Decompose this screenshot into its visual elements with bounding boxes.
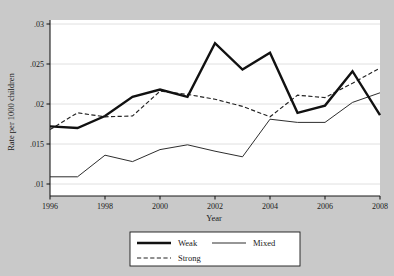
- legend-label-weak: Weak: [178, 238, 198, 248]
- y-tick-label: .03: [34, 20, 44, 29]
- y-axis-label: Rate per 1000 children: [6, 72, 16, 150]
- line-chart: .01.015.02.025.03 1996199820002002200420…: [0, 0, 394, 276]
- y-tick-label: .01: [34, 180, 44, 189]
- x-axis-label: Year: [206, 213, 222, 223]
- plot-area: [50, 20, 380, 196]
- x-tick-label: 2008: [372, 202, 388, 211]
- x-tick-label: 2002: [207, 202, 223, 211]
- chart-legend: WeakMixedStrong: [130, 232, 300, 266]
- y-tick-label: .025: [30, 60, 44, 69]
- x-tick-label: 1996: [42, 202, 58, 211]
- legend-label-strong: Strong: [178, 253, 201, 263]
- x-tick-label: 2000: [152, 202, 168, 211]
- legend-box: [130, 232, 300, 266]
- y-tick-label: .02: [34, 100, 44, 109]
- x-tick-label: 2004: [262, 202, 278, 211]
- x-tick-label: 2006: [317, 202, 333, 211]
- legend-label-mixed: Mixed: [253, 238, 276, 248]
- chart-figure: .01.015.02.025.03 1996199820002002200420…: [0, 0, 394, 276]
- y-tick-label: .015: [30, 140, 44, 149]
- x-tick-label: 1998: [97, 202, 113, 211]
